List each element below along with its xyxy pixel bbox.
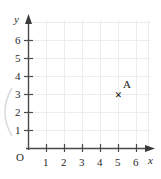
x-tick-label-5: 5 [115, 157, 121, 168]
x-tick-label-1: 1 [43, 157, 49, 168]
y-tick-label-3: 3 [15, 89, 21, 100]
x-tick-label-2: 2 [61, 157, 67, 168]
x-axis [26, 145, 155, 152]
vertical-gridlines [47, 20, 149, 148]
x-tick-label-6: 6 [133, 157, 139, 168]
x-tick-label-3: 3 [79, 157, 85, 168]
point-marker-a: × [115, 89, 122, 101]
point-label-a: A [123, 79, 131, 90]
scan-artifact-arc [5, 88, 12, 136]
y-tick-label-4: 4 [15, 71, 21, 82]
y-tick-label-6: 6 [15, 35, 21, 46]
y-tick-label-5: 5 [15, 53, 21, 64]
x-tick-label-4: 4 [97, 157, 103, 168]
coordinate-grid-figure: y x O 6 5 4 3 2 1 1 2 3 4 5 6 × A [0, 0, 161, 179]
y-tick-label-1: 1 [15, 125, 21, 136]
y-axis-arrowhead [25, 14, 32, 24]
y-axis [25, 14, 32, 150]
y-tick-label-2: 2 [15, 107, 21, 118]
x-axis-arrowhead [145, 145, 155, 152]
origin-label: O [16, 152, 24, 163]
plot-area [0, 0, 161, 179]
x-axis-label: x [148, 155, 153, 166]
y-axis-label: y [14, 14, 19, 25]
